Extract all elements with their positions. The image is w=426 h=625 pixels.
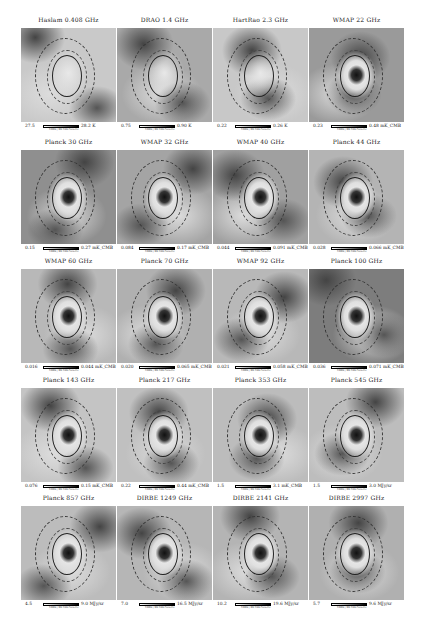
inner-aperture-ellipse (340, 415, 370, 457)
colorbar-max: 0.091 mK_CMB (273, 245, 308, 250)
sky-map-image (309, 269, 404, 363)
colorbar-caption: DBBS | BR DSS Galactic (241, 606, 271, 609)
sky-map-image (213, 506, 308, 600)
panel-title: HartRao 2.3 GHz (213, 16, 308, 23)
panel-title: Planck 545 GHz (309, 376, 404, 383)
inner-aperture-ellipse (244, 296, 274, 338)
sky-map-image (213, 150, 308, 244)
colorbar-scale: 1.5 3.0 MJy/sr DBBS | BR DSS Galactic (309, 483, 404, 493)
panel-title: WMAP 40 GHz (213, 138, 308, 145)
colorbar-max: 0.044 mK_CMB (81, 364, 116, 369)
panel-title: DIRBE 2141 GHz (213, 494, 308, 501)
colorbar-min: 0.084 (121, 245, 134, 250)
panel-title: DRAO 1.4 GHz (117, 16, 212, 23)
colorbar-min: 0.021 (217, 364, 230, 369)
sky-map-image (309, 150, 404, 244)
colorbar-scale: 0.016 0.044 mK_CMB DBBS | BR DSS Galacti… (21, 364, 116, 374)
inner-aperture-ellipse (244, 55, 274, 97)
inner-aperture-ellipse (52, 177, 82, 219)
panel-title: Planck 857 GHz (21, 494, 116, 501)
colorbar-max: 0.48 mK_CMB (369, 123, 401, 128)
colorbar-caption: DBBS | BR DSS Galactic (241, 488, 271, 491)
inner-aperture-ellipse (340, 55, 370, 97)
inner-aperture-ellipse (148, 296, 178, 338)
colorbar-scale: 0.084 0.17 mK_CMB DBBS | BR DSS Galactic (117, 245, 212, 255)
sky-map-image (117, 388, 212, 482)
colorbar-scale: 0.020 0.065 mK_CMB DBBS | BR DSS Galacti… (117, 364, 212, 374)
inner-aperture-ellipse (340, 296, 370, 338)
colorbar-max: 0.26 K (273, 123, 287, 128)
colorbar-min: 4.5 (25, 601, 32, 606)
colorbar-max: 0.27 mK_CMB (81, 245, 113, 250)
colorbar-max: 0.058 mK_CMB (273, 364, 308, 369)
panel-title: WMAP 32 GHz (117, 138, 212, 145)
colorbar-scale: 10.2 19.6 MJy/sr DBBS | BR DSS Galactic (213, 601, 308, 611)
panel-title: Planck 143 GHz (21, 376, 116, 383)
colorbar-max: 0.071 mK_CMB (369, 364, 404, 369)
colorbar-min: 0.044 (217, 245, 230, 250)
colorbar-max: 0.066 mK_CMB (369, 245, 404, 250)
colorbar-scale: 0.22 0.44 mK_CMB DBBS | BR DSS Galactic (117, 483, 212, 493)
panel-title: WMAP 60 GHz (21, 257, 116, 264)
colorbar-scale: 7.0 16.5 MJy/sr DBBS | BR DSS Galactic (117, 601, 212, 611)
colorbar-caption: DBBS | BR DSS Galactic (337, 250, 367, 253)
colorbar-caption: DBBS | BR DSS Galactic (241, 369, 271, 372)
colorbar-min: 7.0 (121, 601, 128, 606)
colorbar-min: 1.5 (313, 483, 320, 488)
colorbar-caption: DBBS | BR DSS Galactic (145, 606, 175, 609)
panel-title: Planck 70 GHz (117, 257, 212, 264)
colorbar-scale: 0.076 0.15 mK_CMB DBBS | BR DSS Galactic (21, 483, 116, 493)
inner-aperture-ellipse (52, 296, 82, 338)
sky-map-image (21, 388, 116, 482)
colorbar-scale: 0.036 0.071 mK_CMB DBBS | BR DSS Galacti… (309, 364, 404, 374)
colorbar-min: 0.23 (313, 123, 323, 128)
colorbar-caption: DBBS | BR DSS Galactic (49, 128, 79, 131)
inner-aperture-ellipse (244, 415, 274, 457)
colorbar-max: 9.6 MJy/sr (369, 601, 392, 606)
colorbar-min: 0.22 (121, 483, 131, 488)
colorbar-min: 0.15 (25, 245, 35, 250)
inner-aperture-ellipse (148, 415, 178, 457)
colorbar-caption: DBBS | BR DSS Galactic (241, 128, 271, 131)
colorbar-caption: DBBS | BR DSS Galactic (241, 250, 271, 253)
inner-aperture-ellipse (340, 533, 370, 575)
sky-map-image (117, 269, 212, 363)
colorbar-max: 0.15 mK_CMB (81, 483, 113, 488)
panel-title: Planck 100 GHz (309, 257, 404, 264)
inner-aperture-ellipse (148, 177, 178, 219)
panel-title: DIRBE 2997 GHz (309, 494, 404, 501)
sky-map-image (213, 269, 308, 363)
colorbar-scale: 0.044 0.091 mK_CMB DBBS | BR DSS Galacti… (213, 245, 308, 255)
panel-title: Planck 353 GHz (213, 376, 308, 383)
colorbar-scale: 0.028 0.066 mK_CMB DBBS | BR DSS Galacti… (309, 245, 404, 255)
colorbar-min: 10.2 (217, 601, 227, 606)
colorbar-min: 0.076 (25, 483, 38, 488)
colorbar-caption: DBBS | BR DSS Galactic (49, 369, 79, 372)
colorbar-max: 0.17 mK_CMB (177, 245, 209, 250)
inner-aperture-ellipse (52, 415, 82, 457)
inner-aperture-ellipse (148, 55, 178, 97)
colorbar-max: 3.1 mK_CMB (273, 483, 302, 488)
sky-map-image (117, 506, 212, 600)
sky-map-image (117, 150, 212, 244)
colorbar-caption: DBBS | BR DSS Galactic (145, 250, 175, 253)
colorbar-min: 0.036 (313, 364, 326, 369)
inner-aperture-ellipse (52, 55, 82, 97)
inner-aperture-ellipse (244, 533, 274, 575)
sky-map-image (309, 388, 404, 482)
colorbar-min: 0.75 (121, 123, 131, 128)
sky-map-image (21, 269, 116, 363)
panel-title: Planck 217 GHz (117, 376, 212, 383)
sky-map-image (309, 506, 404, 600)
panel-title: Haslam 0.408 GHz (21, 16, 116, 23)
colorbar-scale: 1.5 3.1 mK_CMB DBBS | BR DSS Galactic (213, 483, 308, 493)
colorbar-caption: DBBS | BR DSS Galactic (49, 606, 79, 609)
colorbar-max: 9.0 MJy/sr (81, 601, 104, 606)
colorbar-min: 0.22 (217, 123, 227, 128)
colorbar-min: 0.020 (121, 364, 134, 369)
colorbar-max: 19.6 MJy/sr (273, 601, 299, 606)
colorbar-min: 5.7 (313, 601, 320, 606)
colorbar-scale: 5.7 9.6 MJy/sr DBBS | BR DSS Galactic (309, 601, 404, 611)
colorbar-max: 3.0 MJy/sr (369, 483, 392, 488)
inner-aperture-ellipse (148, 533, 178, 575)
